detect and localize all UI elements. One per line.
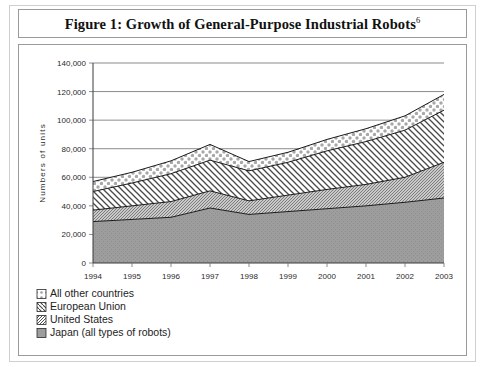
y-axis-tick-label: 0 [82, 259, 87, 268]
chart-legend: All other countriesEuropean UnionUnited … [37, 287, 171, 338]
y-axis-tick-labels: 020,00040,00060,00080,000100,000120,0001… [57, 59, 86, 268]
x-axis-tick-label: 2003 [435, 272, 453, 281]
stacked-area-chart: 020,00040,00060,00080,000100,000120,0001… [19, 45, 466, 355]
legend-label: United States [50, 313, 113, 325]
legend-label: All other countries [50, 287, 134, 299]
y-axis-tick-label: 60,000 [62, 173, 87, 182]
legend-swatch [37, 316, 46, 325]
x-axis-tick-label: 1995 [123, 272, 141, 281]
page-title: Figure 1: Growth of General-Purpose Indu… [65, 15, 421, 33]
x-axis-tick-label: 1999 [279, 272, 297, 281]
x-axis-tick-label: 2001 [357, 272, 375, 281]
x-axis-tick-label: 2000 [318, 272, 336, 281]
y-axis-tick-label: 100,000 [57, 116, 86, 125]
legend-swatch [37, 329, 46, 338]
y-axis-tick-label: 80,000 [62, 145, 87, 154]
x-axis-tick-label: 1996 [162, 272, 180, 281]
legend-label: European Union [50, 300, 126, 312]
x-axis-tick-label: 2002 [396, 272, 414, 281]
legend-swatch [37, 290, 46, 299]
chart-frame: 020,00040,00060,00080,000100,000120,0001… [18, 44, 467, 356]
y-axis-tick-label: 140,000 [57, 59, 86, 68]
figure-title-label: Figure 1: Growth of General-Purpose Indu… [65, 15, 416, 31]
x-axis-tick-label: 1994 [84, 272, 102, 281]
figure-title-bar: Figure 1: Growth of General-Purpose Indu… [18, 9, 467, 38]
x-axis-tick-label: 1997 [201, 272, 219, 281]
y-axis-tick-label: 40,000 [62, 202, 87, 211]
x-axis-tick-labels: 1994199519961997199819992000200120022003 [84, 263, 453, 281]
x-axis-tick-label: 1998 [240, 272, 258, 281]
y-axis-tick-label: 120,000 [57, 88, 86, 97]
legend-swatch [37, 303, 46, 312]
area-series-group [93, 94, 444, 263]
legend-label: Japan (all types of robots) [50, 326, 171, 338]
y-axis-tick-label: 20,000 [62, 230, 87, 239]
y-axis-title: Numbers of units [38, 123, 47, 203]
figure-title-footnote: 6 [416, 15, 420, 25]
figure-container: Figure 1: Growth of General-Purpose Indu… [0, 0, 485, 367]
